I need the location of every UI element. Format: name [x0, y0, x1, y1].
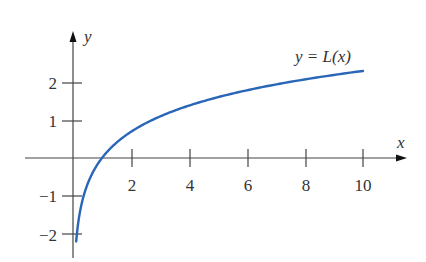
y-axis-label: y	[82, 27, 92, 46]
x-tick-label: 10	[355, 176, 372, 195]
log-curve	[76, 71, 363, 241]
curve-label: y = L(x)	[293, 47, 351, 66]
y-tick-label: −2	[39, 226, 57, 245]
x-tick-label: 6	[244, 176, 253, 195]
y-axis-arrow-icon	[70, 31, 77, 42]
x-axis-arrow-icon	[396, 155, 407, 162]
y-tick-label: −1	[39, 187, 57, 206]
y-tick-label: 1	[49, 112, 58, 131]
chart-canvas: 2 4 6 8 10 2 1 −1 −2 y x y = L(x)	[0, 0, 426, 262]
x-tick-label: 4	[186, 176, 195, 195]
x-tick-label: 2	[128, 176, 137, 195]
x-axis-label: x	[396, 133, 405, 152]
y-tick-label: 2	[49, 74, 58, 93]
x-tick-label: 8	[302, 176, 311, 195]
